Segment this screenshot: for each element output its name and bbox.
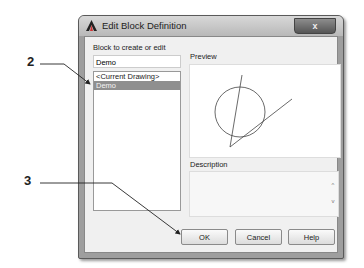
callout-arrows [0,0,364,268]
